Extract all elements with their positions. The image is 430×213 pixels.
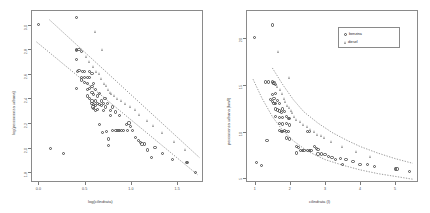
data-point-benzina (255, 161, 258, 164)
y-tick-label: 10 (239, 132, 243, 136)
x-axis-label-right: cilindrata (l) (309, 199, 330, 204)
data-point-diesel (369, 155, 371, 158)
benzina-fit (253, 79, 413, 179)
data-point-diesel (85, 55, 87, 58)
legend-marker-triangle-icon (344, 41, 346, 44)
data-point-diesel (274, 81, 276, 84)
y-tick-mark (243, 38, 246, 39)
data-point-benzina (373, 165, 376, 168)
data-point-benzina (309, 149, 312, 152)
data-point-benzina (341, 163, 344, 166)
x-tick-label: 1.5 (174, 187, 179, 191)
benzina-fit (37, 42, 198, 175)
y-tick-label: 2.8 (24, 49, 28, 54)
data-point-diesel (330, 140, 332, 143)
data-point-diesel (134, 108, 136, 111)
data-point-benzina (90, 85, 93, 88)
data-point-benzina (103, 97, 106, 100)
data-point-diesel (80, 48, 82, 51)
x-tick-label: 1 (254, 187, 256, 191)
plot-canvas-left (0, 0, 215, 213)
data-point-diesel (284, 100, 286, 103)
data-point-diesel (184, 148, 186, 151)
data-point-benzina (186, 161, 189, 164)
data-point-diesel (98, 72, 100, 75)
y-tick-mark (243, 85, 246, 86)
data-point-benzina (153, 146, 156, 149)
data-point-benzina (126, 129, 129, 132)
data-point-diesel (152, 124, 154, 127)
data-point-diesel (88, 60, 90, 63)
data-point-diesel (295, 118, 297, 121)
data-point-diesel (173, 140, 175, 143)
data-point-benzina (316, 148, 319, 151)
y-tick-label: 2.6 (24, 74, 28, 79)
plot-panel-right: 123455101520 benzina diesel cilindrata (… (215, 0, 430, 213)
x-tick-label: 0.5 (82, 187, 87, 191)
x-tick-label: 4 (359, 187, 361, 191)
data-point-diesel (288, 76, 290, 79)
diesel-fit (49, 20, 199, 158)
data-point-diesel (299, 120, 301, 123)
legend-box[interactable]: benzina diesel (338, 27, 400, 48)
x-tick-mark (255, 182, 256, 185)
data-point-diesel (116, 97, 118, 100)
x-tick-label: 5 (394, 187, 396, 191)
data-point-diesel (138, 113, 140, 116)
data-point-diesel (276, 85, 278, 88)
y-tick-mark (28, 25, 31, 26)
data-point-diesel (92, 65, 94, 68)
data-point-diesel (105, 84, 107, 87)
data-point-diesel (161, 131, 163, 134)
data-point-diesel (279, 88, 281, 91)
data-point-benzina (146, 148, 149, 151)
x-tick-label: 0.0 (36, 187, 41, 191)
data-point-benzina (344, 158, 347, 161)
y-tick-label: 20 (239, 38, 243, 42)
data-point-benzina (107, 137, 110, 140)
data-point-benzina (287, 130, 290, 133)
data-point-diesel (129, 105, 131, 108)
x-tick-mark (177, 182, 178, 185)
y-tick-mark (28, 74, 31, 75)
data-point-diesel (281, 92, 283, 95)
y-tick-label: 2.4 (24, 98, 28, 103)
y-tick-label: 3.0 (24, 25, 28, 30)
data-point-diesel (95, 70, 97, 73)
y-tick-mark (243, 132, 246, 133)
data-point-benzina (75, 16, 78, 19)
legend-item-benzina[interactable]: benzina (344, 32, 362, 36)
x-axis-label-left: log(cilindrata) (88, 199, 113, 204)
data-point-benzina (111, 105, 114, 108)
x-tick-mark (290, 182, 291, 185)
data-point-diesel (316, 133, 318, 136)
data-point-benzina (114, 110, 117, 113)
y-tick-label: 2.2 (24, 123, 28, 128)
data-point-benzina (395, 167, 398, 170)
data-point-benzina (351, 160, 354, 163)
data-point-diesel (110, 92, 112, 95)
data-point-diesel (341, 145, 343, 148)
x-tick-mark (395, 182, 396, 185)
data-point-diesel (120, 99, 122, 102)
legend-label-diesel: diesel (348, 40, 358, 44)
data-point-benzina (366, 163, 369, 166)
data-point-diesel (291, 111, 293, 114)
x-tick-mark (131, 182, 132, 185)
data-point-diesel (309, 128, 311, 131)
data-point-benzina (358, 163, 361, 166)
data-point-diesel (101, 48, 103, 51)
legend-item-diesel[interactable]: diesel (344, 40, 358, 44)
x-tick-label: 3 (324, 187, 326, 191)
data-point-benzina (107, 144, 110, 147)
legend-label-benzina: benzina (349, 32, 362, 36)
plot-panel-left: 0.00.51.01.51.82.02.22.42.62.83.0 log(ci… (0, 0, 215, 213)
data-point-benzina (150, 156, 153, 159)
data-point-diesel (323, 136, 325, 139)
data-point-benzina (271, 23, 274, 26)
x-tick-mark (38, 182, 39, 185)
data-point-diesel (94, 30, 96, 33)
x-tick-label: 2 (289, 187, 291, 191)
y-axis-label-left: log(percorrenza urbana) (11, 91, 16, 135)
y-tick-mark (28, 49, 31, 50)
